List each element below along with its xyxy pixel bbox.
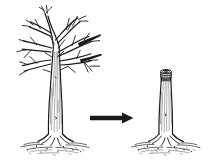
illustration-canvas [0,0,210,166]
tree-topping-figure [0,0,210,166]
stump-cut-face [160,70,171,82]
figure-background [0,0,210,166]
